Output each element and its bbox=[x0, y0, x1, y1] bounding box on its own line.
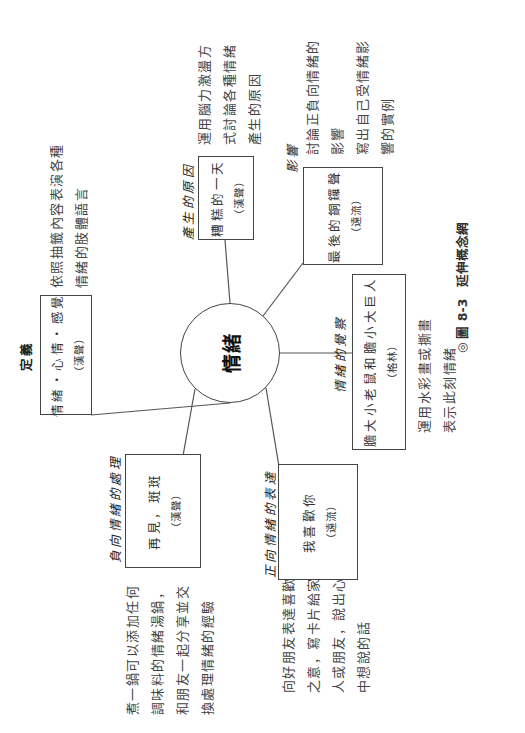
book-box-awareness: 膽大小老鼠和膽小大巨人 （格林） bbox=[352, 274, 406, 450]
book-box-cause: 糟糕的一天 （漢聲） bbox=[198, 156, 254, 240]
book-title: 我喜歡你 bbox=[299, 491, 318, 553]
concept-map-page: 情緒 定義 情緒・心情・感覺 （漢聲） 依照抽籤內容表演各種 情緒的肢體語言 產… bbox=[0, 0, 525, 733]
branch-label-definition: 定義 bbox=[16, 340, 35, 371]
activity-line: 調味料的情緒湯鍋， bbox=[145, 585, 170, 716]
activity-line: 情緒的肢體語言 bbox=[69, 143, 94, 288]
activity-line: 和朋友一起分享並交 bbox=[170, 585, 195, 716]
activity-note-cause: 運用腦力激盪方 式討論各種情緒 產生的原因 bbox=[192, 44, 267, 146]
activity-line: 之意，寫卡片給家 bbox=[301, 577, 326, 693]
book-publisher: （遠流） bbox=[348, 194, 363, 238]
activity-note-impact: 討論正負向情緒的 影響 寫出自己受情緒影 響的實例 bbox=[300, 39, 400, 155]
activity-line: 產生的原因 bbox=[242, 44, 267, 146]
figure-number: 圖 8-3 bbox=[452, 299, 471, 339]
figure-title: 延伸概念網 bbox=[452, 222, 471, 287]
activity-line: 中想說的話 bbox=[351, 577, 376, 693]
book-publisher: （格林） bbox=[384, 340, 399, 384]
activity-line: 人或朋友，說出心 bbox=[326, 577, 351, 693]
branch-label-negative: 負向情緒的處理 bbox=[105, 455, 124, 564]
book-publisher: （漢聲） bbox=[168, 489, 183, 533]
activity-note-negative: 煮一鍋可以添加任何 調味料的情緒湯鍋， 和朋友一起分享並交 換處理情緒的經驗 bbox=[120, 585, 220, 716]
book-title: 膽大小老鼠和膽小大巨人 bbox=[360, 277, 379, 448]
center-node: 情緒 bbox=[180, 303, 280, 403]
activity-line: 式討論各種情緒 bbox=[217, 44, 242, 146]
book-title: 再見，斑斑 bbox=[144, 472, 163, 550]
activity-line: 依照抽籤內容表演各種 bbox=[44, 143, 69, 288]
caption-bullet-icon: ◎ bbox=[455, 343, 469, 353]
activity-line: 寫出自己受情緒影 bbox=[350, 39, 375, 155]
book-title: 最後的銅鑼聲 bbox=[324, 170, 343, 263]
activity-line: 響的實例 bbox=[375, 39, 400, 155]
book-publisher: （遠流） bbox=[323, 500, 338, 544]
branch-label-impact: 影響 bbox=[282, 142, 301, 173]
book-publisher: （漢聲） bbox=[71, 333, 86, 377]
branch-label-awareness: 情緒的覺察 bbox=[330, 316, 349, 394]
connector-definition bbox=[91, 403, 230, 415]
activity-line: 討論正負向情緒的 bbox=[300, 39, 325, 155]
book-box-impact: 最後的銅鑼聲 （遠流） bbox=[303, 167, 383, 265]
book-box-definition: 情緒・心情・感覺 （漢聲） bbox=[40, 295, 92, 415]
connector-cause bbox=[225, 240, 230, 303]
book-title: 情緒・心情・感覺 bbox=[47, 293, 66, 417]
connector-impact bbox=[263, 263, 303, 316]
center-label: 情緒 bbox=[217, 333, 244, 373]
activity-line: 運用腦力激盪方 bbox=[192, 44, 217, 146]
book-title: 糟糕的一天 bbox=[207, 159, 226, 237]
activity-note-positive: 向好朋友表達喜歡 之意，寫卡片給家 人或朋友，說出心 中想說的話 bbox=[276, 577, 376, 693]
activity-line: 向好朋友表達喜歡 bbox=[276, 577, 301, 693]
branch-label-cause: 產生的原因 bbox=[178, 163, 197, 241]
book-box-negative: 再見，斑斑 （漢聲） bbox=[125, 454, 201, 568]
activity-line: 煮一鍋可以添加任何 bbox=[120, 585, 145, 716]
figure-caption: ◎ 圖 8-3 延伸概念網 bbox=[452, 222, 471, 353]
branch-label-positive: 正向情緒的表達 bbox=[260, 470, 279, 579]
book-publisher: （漢聲） bbox=[231, 176, 246, 220]
activity-note-definition: 依照抽籤內容表演各種 情緒的肢體語言 bbox=[44, 143, 94, 288]
book-box-positive: 我喜歡你 （遠流） bbox=[278, 464, 358, 580]
activity-line: 運用水彩畫或撕畫 bbox=[412, 317, 437, 433]
activity-line: 影響 bbox=[325, 39, 350, 155]
activity-line: 換處理情緒的經驗 bbox=[195, 585, 220, 716]
